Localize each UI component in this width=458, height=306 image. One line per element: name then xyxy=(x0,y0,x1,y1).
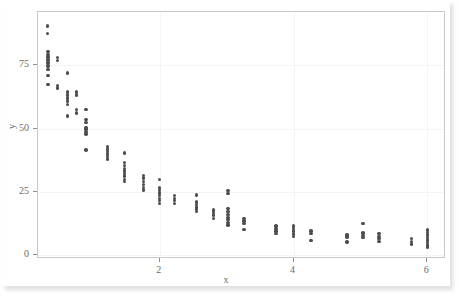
scatter-points-layer xyxy=(38,12,444,257)
scatter-point xyxy=(361,222,364,225)
y-tick-label: 75 xyxy=(2,59,29,69)
scatter-point xyxy=(123,180,126,183)
scatter-point xyxy=(226,192,229,195)
scatter-point xyxy=(242,222,245,225)
scatter-point xyxy=(66,114,69,117)
scatter-point xyxy=(106,157,109,160)
scatter-point xyxy=(66,103,69,106)
scatter-point xyxy=(345,240,348,243)
scatter-point xyxy=(292,235,295,238)
scatter-point xyxy=(46,24,49,27)
y-tick-mark xyxy=(33,254,37,255)
y-tick-mark xyxy=(33,64,37,65)
scatter-point xyxy=(75,93,78,96)
scatter-point xyxy=(195,193,198,196)
scatter-point xyxy=(84,108,87,111)
scatter-point xyxy=(242,228,245,231)
scatter-point xyxy=(123,151,126,154)
y-tick-mark xyxy=(33,191,37,192)
y-axis-title: y xyxy=(6,124,17,129)
screenshot-root: 0255075 246 y x xyxy=(0,0,458,306)
scatter-point xyxy=(84,148,87,151)
scatter-point xyxy=(377,240,380,243)
scatter-point xyxy=(75,111,78,114)
scatter-point xyxy=(84,121,87,124)
scatter-point xyxy=(195,210,198,213)
scatter-point xyxy=(46,68,49,71)
scatter-point xyxy=(212,217,215,220)
scatter-point xyxy=(56,59,59,62)
scatter-point xyxy=(309,239,312,242)
x-axis-title: x xyxy=(2,274,450,285)
scatter-point xyxy=(158,178,161,181)
y-tick-label: 25 xyxy=(2,186,29,196)
scatter-point xyxy=(345,235,348,238)
scatter-point xyxy=(226,223,229,226)
scatter-point xyxy=(410,242,413,245)
scatter-point xyxy=(361,236,364,239)
figure-card: 0255075 246 y x xyxy=(2,0,450,286)
scatter-point xyxy=(66,71,69,74)
scatter-point xyxy=(309,232,312,235)
scatter-point xyxy=(158,202,161,205)
x-tick-mark xyxy=(426,258,427,262)
scatter-point xyxy=(46,83,49,86)
x-tick-mark xyxy=(293,258,294,262)
scatter-point xyxy=(426,245,429,248)
scatter-point xyxy=(142,188,145,191)
y-tick-label: 0 xyxy=(2,249,29,259)
scatter-point xyxy=(46,74,49,77)
scatter-point xyxy=(56,86,59,89)
scatter-point xyxy=(173,202,176,205)
scatter-point xyxy=(274,232,277,235)
scatter-point xyxy=(46,32,49,35)
scatter-point xyxy=(84,132,87,135)
x-tick-mark xyxy=(159,258,160,262)
plot-area xyxy=(37,11,445,258)
y-tick-mark xyxy=(33,128,37,129)
